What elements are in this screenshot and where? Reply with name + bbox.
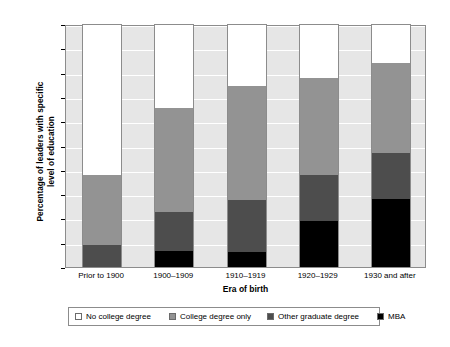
bar-segment-mba	[372, 199, 410, 267]
bar-4	[299, 24, 339, 267]
plot-area	[65, 25, 426, 268]
y-axis-tick-mark	[61, 268, 65, 269]
legend-item-no-college-degree: No college degree	[75, 312, 151, 321]
legend-item-other-graduate-degree: Other graduate degree	[267, 312, 359, 321]
bar-3	[227, 24, 267, 267]
legend-swatch-dark-gray	[267, 313, 274, 320]
bar-segment-college-degree-only	[155, 108, 193, 212]
bar-segment-other-graduate-degree	[83, 245, 121, 267]
legend-label: College degree only	[180, 312, 251, 321]
x-axis-tick-label: 1930 and after	[345, 271, 435, 280]
bar-segment-other-graduate-degree	[372, 153, 410, 199]
bar-segment-other-graduate-degree	[228, 200, 266, 252]
bar-1	[82, 24, 122, 267]
bar-segment-mba	[155, 251, 193, 267]
bar-segment-no-college-degree	[228, 25, 266, 86]
bar-segment-no-college-degree	[155, 25, 193, 108]
bar-segment-no-college-degree	[83, 25, 121, 175]
bar-segment-mba	[228, 252, 266, 267]
y-axis-title-line-1: Percentage of leaders with specific	[36, 27, 47, 277]
bar-segment-mba	[300, 221, 338, 267]
bar-segment-college-degree-only	[228, 86, 266, 201]
legend-label: MBA	[388, 312, 405, 321]
bar-segment-other-graduate-degree	[155, 212, 193, 252]
legend-label: No college degree	[86, 312, 151, 321]
legend-swatch-white	[75, 313, 82, 320]
legend-item-college-degree-only: College degree only	[169, 312, 251, 321]
bar-segment-college-degree-only	[83, 175, 121, 245]
y-axis-title: Percentage of leaders with specific leve…	[36, 27, 57, 277]
bar-segment-college-degree-only	[300, 78, 338, 175]
bar-segment-other-graduate-degree	[300, 175, 338, 221]
legend-swatch-gray	[169, 313, 176, 320]
bar-segment-no-college-degree	[372, 25, 410, 63]
legend-item-mba: MBA	[377, 312, 405, 321]
x-axis-title: Era of birth	[65, 284, 426, 294]
bar-segment-no-college-degree	[300, 25, 338, 78]
legend-swatch-black	[377, 313, 384, 320]
bar-5	[371, 24, 411, 267]
y-axis-title-line-2: level of education	[46, 27, 57, 277]
bar-segment-college-degree-only	[372, 63, 410, 154]
legend-label: Other graduate degree	[278, 312, 359, 321]
chart-legend: No college degreeCollege degree onlyOthe…	[68, 307, 380, 326]
stacked-bar-chart: Percentage of leaders with specific leve…	[0, 0, 450, 347]
bar-2	[154, 24, 194, 267]
